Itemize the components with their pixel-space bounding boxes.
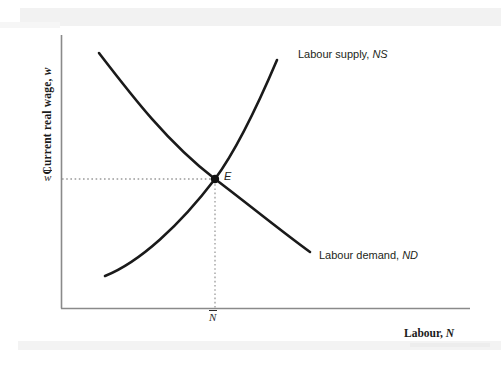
y-axis-tick-equilibrium-wage: w xyxy=(44,171,51,183)
labour-supply-label-symbol: NS xyxy=(372,48,387,60)
x-axis-label: Labour, N xyxy=(404,327,454,339)
y-axis-label-symbol: w xyxy=(41,67,53,75)
x-tick-label-text: N xyxy=(209,312,216,323)
labour-demand-curve xyxy=(99,53,310,252)
labour-market-figure: Current real wage, w Labour, N w N Labou… xyxy=(0,0,501,367)
x-axis-label-text: Labour, xyxy=(404,327,446,339)
x-axis-label-symbol: N xyxy=(446,327,454,339)
labour-demand-label-text: Labour demand, xyxy=(319,249,402,261)
plot-area xyxy=(0,0,501,367)
y-tick-label-text: w xyxy=(44,172,51,183)
equilibrium-point-label: E xyxy=(224,170,231,182)
equilibrium-point-marker xyxy=(211,175,219,183)
labour-demand-label-symbol: ND xyxy=(402,249,418,261)
labour-supply-label-text: Labour supply, xyxy=(298,48,372,60)
labour-supply-label: Labour supply, NS xyxy=(298,48,388,60)
y-axis-label-text: Current real wage, xyxy=(41,75,53,174)
x-axis-tick-equilibrium-employment: N xyxy=(209,311,216,323)
labour-demand-label: Labour demand, ND xyxy=(319,249,418,261)
